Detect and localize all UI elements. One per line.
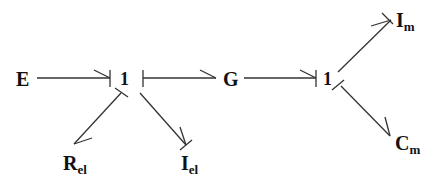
node-g: G (223, 68, 239, 90)
bond-j1-to-iel (140, 93, 192, 150)
junction-1-mechanical: 1 (323, 69, 332, 89)
node-im: Im (396, 9, 415, 34)
bond-e-to-j1 (37, 70, 110, 87)
bond-j1-to-rel (74, 88, 128, 144)
bond-g-to-j2 (244, 70, 316, 87)
bond-j1-to-g (143, 70, 216, 87)
bond-graph-diagram: E 1 G 1 Rel Iel Im Cm (0, 0, 442, 182)
junction-1-electrical: 1 (120, 69, 129, 89)
node-cm: Cm (395, 132, 420, 157)
bond-j2-to-cm (332, 80, 390, 136)
node-rel: Rel (63, 152, 87, 177)
node-iel: Iel (181, 152, 199, 177)
bond-j2-to-im (338, 13, 393, 72)
node-e: E (16, 68, 29, 90)
